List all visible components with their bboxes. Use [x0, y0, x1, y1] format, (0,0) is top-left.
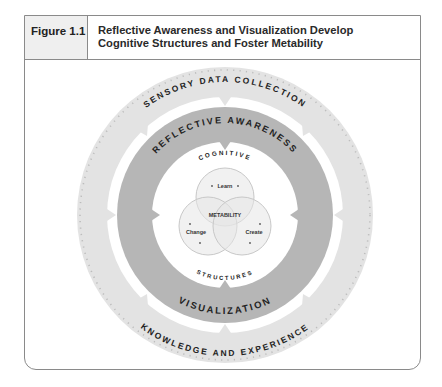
venn-label-learn: Learn — [218, 183, 234, 189]
venn-label-change: Change — [186, 229, 206, 235]
venn-center-label: METABILITY — [209, 212, 242, 218]
venn-label-create: Create — [245, 229, 262, 235]
venn-circle-create — [213, 197, 271, 255]
concentric-diagram: SENSORY DATA COLLECTION KNOWLEDGE AND EX… — [0, 0, 442, 387]
